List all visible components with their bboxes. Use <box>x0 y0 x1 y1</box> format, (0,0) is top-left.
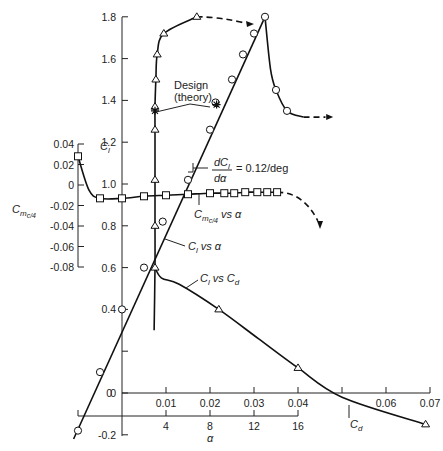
cl-tick: 1.4 <box>101 94 116 106</box>
svg-text:0: 0 <box>106 387 112 399</box>
cm-alpha-point <box>242 189 249 196</box>
cl-tick: 1.0 <box>101 178 116 190</box>
cm-tick: -0.04 <box>50 220 74 232</box>
alpha-tick: 12 <box>248 420 260 432</box>
cd-axis-label: Cd <box>350 418 363 433</box>
cl-tick: -0.2 <box>98 429 116 441</box>
cd-tick: 0.02 <box>200 397 221 409</box>
design-arrow-left <box>156 104 190 112</box>
cl-vs-cd-label: Cl vs Cd <box>200 272 240 287</box>
cl-tick: 0.4 <box>101 303 116 315</box>
cl-alpha-point <box>250 30 257 37</box>
cm-alpha-point <box>274 189 281 196</box>
cd-tick: 0.07 <box>420 397 441 409</box>
cm-tick: -0.08 <box>50 261 74 273</box>
cd-axis: 0.010.020.030.040.060.070 <box>106 387 440 409</box>
cm-alpha-point <box>207 190 214 197</box>
markers <box>74 13 429 434</box>
cl-alpha-point <box>96 369 103 376</box>
design-arrow-right <box>190 104 210 107</box>
cm-alpha-point <box>221 190 228 197</box>
slope-value: = 0.12/deg <box>236 162 288 174</box>
cl-alpha-point <box>74 427 81 434</box>
design-star-icon <box>151 107 159 115</box>
cl-cd-point <box>215 305 223 312</box>
cm-alpha-point <box>163 192 170 199</box>
cd-tick: 0.03 <box>244 397 265 409</box>
cd-tick: 0.01 <box>156 397 177 409</box>
alpha-tick: 8 <box>207 420 213 432</box>
cl-alpha-point <box>159 218 166 225</box>
cl-tick: 0.6 <box>101 262 116 274</box>
cl-tick: 0.8 <box>101 220 116 232</box>
alpha-tick: 4 <box>163 420 169 432</box>
cm-alpha-point <box>97 195 104 202</box>
alpha-axis-label: α <box>207 432 214 444</box>
alpha-tick: 16 <box>292 420 304 432</box>
cl-cd-point <box>151 176 159 183</box>
slope-num: dCl <box>214 156 230 171</box>
cm-alpha-point <box>254 189 261 196</box>
cl-alpha-point <box>228 76 235 83</box>
cl-vs-alpha-label: Cl vs α <box>188 240 222 255</box>
cl-cd-point <box>153 50 161 57</box>
cl-cd-point <box>151 222 159 229</box>
cl-alpha-point <box>206 126 213 133</box>
cl-alpha-point <box>261 13 268 20</box>
airfoil-chart: -0.200.40.60.81.01.21.41.61.8 0.040.020-… <box>0 0 443 451</box>
cm-alpha-point <box>264 189 271 196</box>
cl-alpha-point <box>140 264 147 271</box>
cm-tick: 0.04 <box>54 138 75 150</box>
slope-den: dα <box>214 172 227 184</box>
cd-tick: 0.04 <box>288 397 309 409</box>
cl-tick: 1.8 <box>101 11 116 23</box>
cm-vs-alpha-label: Cmc/4 vs α <box>194 208 242 224</box>
cl-alpha-point <box>118 306 125 313</box>
cm-tick: -0.02 <box>50 200 74 212</box>
cm-axis-label: Cmc/4 <box>12 203 36 219</box>
design-star-icon <box>213 101 221 109</box>
cm-tick: 0 <box>68 179 74 191</box>
cl-cd-point <box>294 364 302 371</box>
cl-cd-point <box>151 126 159 133</box>
cm-alpha-point <box>185 191 192 198</box>
cm-alpha-point <box>141 193 148 200</box>
cm-alpha-point <box>75 153 82 160</box>
cm-alpha-point <box>231 190 238 197</box>
cm-alpha-point <box>119 195 126 202</box>
cl-cd-point <box>152 76 160 83</box>
cm-tick: 0.02 <box>54 159 75 171</box>
cl-tick: 1.6 <box>101 53 116 65</box>
cd-tick: 0.06 <box>376 397 397 409</box>
cl-alpha-point <box>283 107 290 114</box>
design-label: Design <box>174 79 208 91</box>
cl-alpha-point <box>272 86 279 93</box>
cl-alpha-point <box>184 176 191 183</box>
curves <box>74 17 426 439</box>
theory-label: (theory) <box>174 91 212 103</box>
cl-alpha-point <box>239 51 246 58</box>
cm-tick: -0.06 <box>50 241 74 253</box>
